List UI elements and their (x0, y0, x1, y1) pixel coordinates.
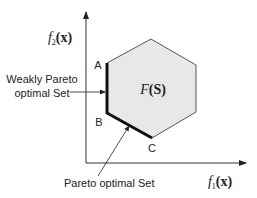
pareto-diagram: F(S) A B C f2(x) f1(x) Weakly Pareto opt… (0, 0, 257, 198)
x-axis-label: f1(x) (208, 174, 233, 191)
y-axis-label: f2(x) (48, 30, 73, 47)
weakly-pareto-label-line2: optimal Set (14, 87, 69, 99)
point-c-label: C (148, 142, 156, 154)
pareto-arrow (98, 126, 129, 176)
point-a-label: A (94, 59, 102, 71)
pareto-label: Pareto optimal Set (64, 177, 155, 189)
weakly-pareto-label-line1: Weakly Pareto (6, 73, 77, 85)
region-label: F(S) (139, 82, 166, 98)
point-b-label: B (95, 116, 102, 128)
